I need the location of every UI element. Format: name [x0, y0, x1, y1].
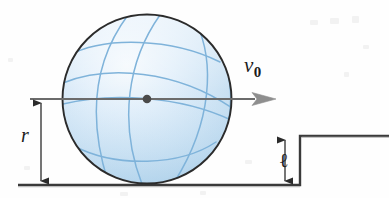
diagram-canvas: [0, 0, 389, 198]
velocity-subscript: 0: [254, 64, 262, 80]
sphere-center-dot: [143, 95, 152, 104]
physics-diagram-figure: v0 r ℓ: [0, 0, 389, 198]
step-height-label: ℓ: [279, 150, 289, 170]
velocity-label: v0: [244, 55, 261, 80]
velocity-symbol: v: [244, 53, 253, 77]
velocity-arrow-head: [252, 93, 276, 106]
radius-label: r: [21, 125, 29, 145]
